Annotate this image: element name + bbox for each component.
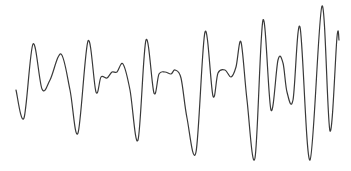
waveform-line xyxy=(16,6,339,160)
waveform-plot-area xyxy=(0,0,351,171)
waveform-chart xyxy=(0,0,351,171)
